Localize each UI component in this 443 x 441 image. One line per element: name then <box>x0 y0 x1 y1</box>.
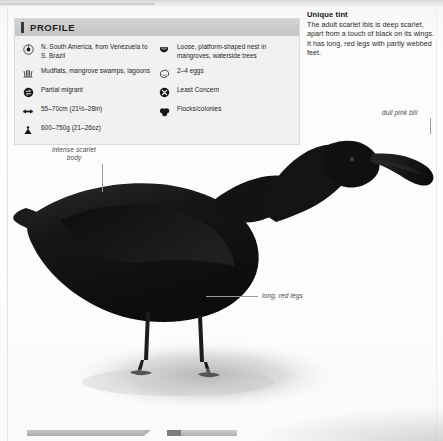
profile-row-eggs: 2–4 eggs <box>157 67 293 79</box>
annotation-dull-pink-bill: dull pink bill <box>382 109 418 116</box>
profile-eggs-text: 2–4 eggs <box>177 67 204 76</box>
profile-habitat-text: Mudflats, mangrove swamps, lagoons <box>41 67 150 76</box>
profile-body: N. South America, from Venezuela to S. B… <box>15 36 299 144</box>
annotation-leader-legs <box>206 296 258 297</box>
annotation-intense-scarlet-body: intense scarlet body <box>46 146 102 163</box>
range-globe-icon <box>21 43 35 55</box>
profile-title: PROFILE <box>30 22 75 33</box>
callout-title: Unique tint <box>307 10 437 19</box>
bird-eye <box>350 157 354 161</box>
profile-row-weight: 600–750g (21–26oz) <box>21 124 151 136</box>
nest-icon <box>157 43 171 55</box>
conservation-status-icon <box>157 86 171 98</box>
page-root: PROFILE N. South America, from Venezuela… <box>0 0 443 441</box>
profile-weight-text: 600–750g (21–26oz) <box>41 124 101 133</box>
bird-bill <box>370 154 433 186</box>
length-double-arrow-icon <box>21 105 35 117</box>
profile-length-text: 55–70cm (21½–28in) <box>41 105 102 114</box>
annotation-leader-body <box>102 164 103 192</box>
annotation-long-red-legs: long, red legs <box>262 292 303 299</box>
profile-accent-bar <box>21 22 24 33</box>
profile-row-migration: Partial migrant <box>21 86 151 98</box>
egg-icon <box>157 67 171 79</box>
flock-icon <box>157 105 171 117</box>
profile-range-text: N. South America, from Venezuela to S. B… <box>41 43 151 60</box>
profile-social-text: Flocks/colonies <box>177 105 221 114</box>
profile-nest-text: Loose, platform-shaped nest in mangroves… <box>177 43 293 60</box>
profile-column-right: Loose, platform-shaped nest in mangroves… <box>157 43 293 136</box>
profile-header: PROFILE <box>15 19 299 36</box>
weight-icon <box>21 124 35 136</box>
corner-shadow <box>253 407 443 441</box>
page-top-edge-accent <box>0 3 155 5</box>
profile-row-social: Flocks/colonies <box>157 105 293 117</box>
profile-panel: PROFILE N. South America, from Venezuela… <box>14 18 300 145</box>
bottom-strip-marker <box>167 430 181 436</box>
profile-row-length: 55–70cm (21½–28in) <box>21 105 151 117</box>
profile-row-habitat: Mudflats, mangrove swamps, lagoons <box>21 67 151 79</box>
profile-migration-text: Partial migrant <box>41 86 83 95</box>
profile-status-text: Least Concern <box>177 86 219 95</box>
profile-row-nest: Loose, platform-shaped nest in mangroves… <box>157 43 293 60</box>
profile-row-range: N. South America, from Venezuela to S. B… <box>21 43 151 60</box>
unique-tint-callout: Unique tint The adult scarlet ibis is de… <box>307 10 437 59</box>
bottom-strip-left <box>27 430 144 436</box>
bottom-strip-right <box>181 430 237 436</box>
migration-arrows-icon <box>21 86 35 98</box>
profile-column-left: N. South America, from Venezuela to S. B… <box>21 43 157 136</box>
profile-row-status: Least Concern <box>157 86 293 98</box>
annotation-leader-bill <box>430 118 431 134</box>
habitat-reeds-icon <box>21 67 35 79</box>
callout-body: The adult scarlet ibis is deep scarlet, … <box>307 21 437 59</box>
